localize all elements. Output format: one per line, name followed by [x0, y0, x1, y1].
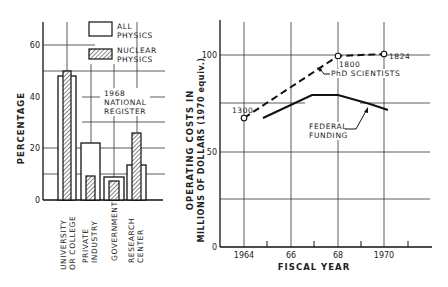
category-label-government: GOVERNMENT — [110, 201, 119, 261]
category-label-university: UNIVERSITY — [59, 219, 68, 270]
minor-x-ticks — [267, 241, 408, 247]
right-line-chart: 0 50 100 1964 66 68 1970 FISCAL YEAR OPE… — [185, 20, 432, 272]
federal-leader-arrow — [364, 107, 368, 113]
point-1968 — [335, 53, 341, 59]
bar-nuclear-physics-university — [63, 71, 71, 200]
point-label-1300: 1300 — [232, 106, 254, 115]
series-label-federal-funding: FUNDING — [309, 131, 348, 140]
series-phd-scientists — [244, 54, 384, 118]
legend-label-nuclear-physics: NUCLEAR — [117, 46, 157, 55]
right-ytick: 0 — [212, 243, 217, 252]
category-label-private: PRIVATE — [81, 228, 90, 263]
right-ytick: 50 — [207, 148, 217, 157]
legend-label-all-physics: ALL — [117, 22, 133, 31]
bar-nuclear-physics-private — [86, 176, 95, 200]
left-ytick: 20 — [30, 144, 40, 153]
right-y-label: OPERATING COSTS IN — [185, 90, 195, 210]
point-label-1824: 1824 — [389, 52, 411, 61]
right-x-label: FISCAL YEAR — [278, 262, 350, 272]
bar-nuclear-physics-research — [132, 133, 141, 200]
right-xtick: 1970 — [374, 251, 394, 260]
series-label-federal-funding: FEDERAL — [309, 122, 347, 131]
category-label-university: OR COLLEGE — [68, 216, 77, 270]
series-label-phd-scientists: PhD SCIENTISTS — [331, 69, 400, 78]
legend-swatch-all-physics — [89, 22, 112, 36]
point-1964 — [241, 115, 247, 121]
right-xtick: 1964 — [234, 251, 254, 260]
figure: 0 20 40 60 PERCENTAGE ALL PHYSICS NUCLEA… — [0, 0, 448, 287]
annotation-text: REGISTER — [104, 107, 146, 116]
legend-label-all-physics: PHYSICS — [117, 31, 153, 40]
left-ytick: 40 — [30, 93, 40, 102]
right-xtick: 68 — [333, 251, 343, 260]
annotation-text: 1968 — [104, 89, 126, 98]
category-labels: UNIVERSITY OR COLLEGE PRIVATE INDUSTRY G… — [59, 201, 145, 270]
legend-swatch-nuclear-physics — [89, 49, 112, 59]
left-ytick: 60 — [30, 41, 40, 50]
series-federal-funding — [263, 95, 388, 118]
bar-nuclear-physics-government — [109, 181, 119, 200]
left-ytick: 0 — [35, 196, 40, 205]
annotation-text: NATIONAL — [104, 98, 147, 107]
legend: ALL PHYSICS NUCLEAR PHYSICS — [89, 22, 157, 64]
category-label-private: INDUSTRY — [90, 220, 99, 263]
category-label-research: RESEARCH — [127, 218, 136, 263]
category-label-research: CENTER — [136, 229, 145, 263]
left-bar-chart: 0 20 40 60 PERCENTAGE ALL PHYSICS NUCLEA… — [16, 22, 165, 270]
point-label-1800: 1800 — [339, 60, 361, 69]
federal-leader-line — [345, 111, 366, 129]
right-xtick: 66 — [286, 251, 296, 260]
point-1970 — [381, 51, 387, 57]
left-y-label: PERCENTAGE — [16, 92, 26, 164]
right-y-label: MILLIONS OF DOLLARS (1970 equiv.) — [197, 57, 206, 242]
legend-label-nuclear-physics: PHYSICS — [117, 55, 153, 64]
